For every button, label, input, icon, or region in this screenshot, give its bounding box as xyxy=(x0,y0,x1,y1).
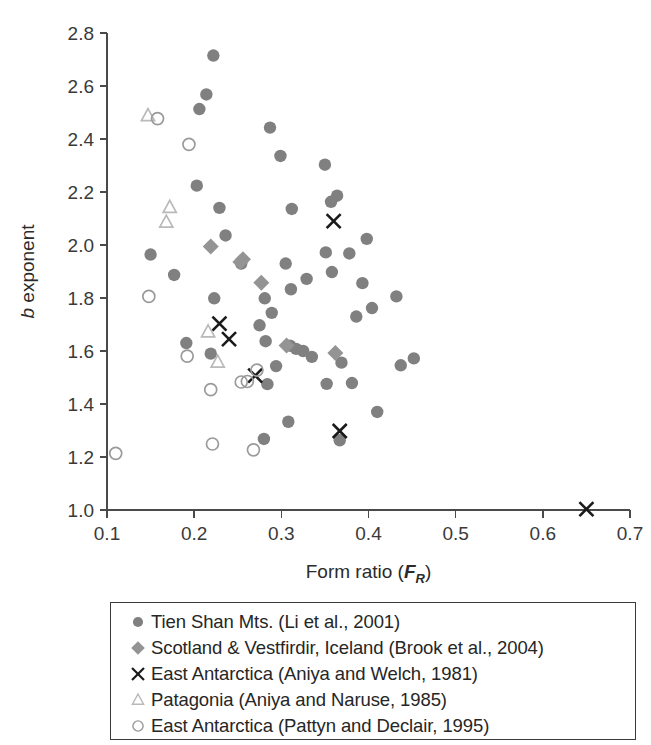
y-axis-title: b exponent xyxy=(17,224,38,319)
x-tick-label: 0.2 xyxy=(181,523,207,544)
series-group xyxy=(144,49,420,446)
data-point xyxy=(366,302,378,314)
circle-filled-icon xyxy=(125,611,151,633)
data-point xyxy=(181,350,193,362)
data-point xyxy=(325,196,337,208)
data-point xyxy=(327,214,341,228)
y-tick-label: 1.4 xyxy=(68,394,95,415)
y-tick-label: 2.2 xyxy=(68,182,94,203)
x-tick-label: 0.7 xyxy=(617,523,643,544)
x-tick-label: 0.5 xyxy=(442,523,468,544)
data-point xyxy=(356,277,368,289)
data-point xyxy=(258,433,270,445)
data-point xyxy=(264,121,276,133)
data-point xyxy=(300,273,312,285)
data-point xyxy=(163,200,176,212)
data-point xyxy=(191,179,203,191)
x-tick-label: 0.6 xyxy=(530,523,556,544)
data-point xyxy=(168,269,180,281)
data-point xyxy=(306,351,318,363)
data-point xyxy=(183,138,195,150)
legend-item[interactable]: Patagonia (Aniya and Naruse, 1985) xyxy=(125,687,631,712)
legend-item-label: East Antarctica (Aniya and Welch, 1981) xyxy=(151,663,478,685)
triangle-open-icon xyxy=(125,689,151,711)
data-point xyxy=(266,307,278,319)
y-tick-label: 1.6 xyxy=(68,341,94,362)
data-point xyxy=(285,283,297,295)
scatter-plot-area: 1.01.21.41.61.82.02.22.42.62.80.10.20.30… xyxy=(0,0,651,600)
data-point xyxy=(207,49,219,61)
data-point xyxy=(247,444,259,456)
data-point xyxy=(320,246,332,258)
data-point xyxy=(261,378,273,390)
data-point xyxy=(180,337,192,349)
cross-icon xyxy=(125,663,151,685)
y-tick-label: 2.4 xyxy=(68,129,95,150)
data-point xyxy=(286,203,298,215)
x-tick-label: 0.3 xyxy=(268,523,294,544)
data-point xyxy=(346,377,358,389)
data-point xyxy=(390,290,402,302)
y-tick-label: 1.8 xyxy=(68,288,94,309)
x-tick-label: 0.4 xyxy=(355,523,382,544)
data-point xyxy=(259,292,271,304)
data-point xyxy=(253,275,269,291)
y-tick-label: 2.6 xyxy=(68,76,94,97)
data-point xyxy=(319,159,331,171)
data-point xyxy=(110,447,122,459)
y-tick-label: 2.0 xyxy=(68,235,94,256)
data-point xyxy=(279,257,291,269)
data-point xyxy=(205,347,217,359)
data-point xyxy=(282,416,294,428)
diamond-filled-icon xyxy=(125,637,151,659)
legend-item[interactable]: East Antarctica (Pattyn and Declair, 199… xyxy=(125,713,631,738)
data-point xyxy=(395,359,407,371)
y-tick-label: 1.2 xyxy=(68,447,94,468)
circle-open-icon xyxy=(125,715,151,737)
data-point xyxy=(219,229,231,241)
data-point xyxy=(208,292,220,304)
legend-list: Tien Shan Mts. (Li et al., 2001)Scotland… xyxy=(125,609,631,739)
data-point xyxy=(371,406,383,418)
data-point xyxy=(143,290,155,302)
data-point xyxy=(203,239,219,255)
data-point xyxy=(200,88,212,100)
data-point xyxy=(222,332,236,346)
legend-item[interactable]: Scotland & Vestfirdir, Iceland (Brook et… xyxy=(125,635,631,660)
legend-box: Tien Shan Mts. (Li et al., 2001)Scotland… xyxy=(110,602,636,740)
data-point xyxy=(361,233,373,245)
scatter-plot-svg: 1.01.21.41.61.82.02.22.42.62.80.10.20.30… xyxy=(0,0,651,600)
data-point xyxy=(206,438,218,450)
figure-root: 1.01.21.41.61.82.02.22.42.62.80.10.20.30… xyxy=(0,0,651,745)
data-point xyxy=(350,310,362,322)
x-axis-title: Form ratio (FR) xyxy=(306,561,432,586)
y-tick-label: 2.8 xyxy=(68,23,94,44)
legend-item[interactable]: East Antarctica (Aniya and Welch, 1981) xyxy=(125,661,631,686)
data-point xyxy=(259,335,271,347)
data-point xyxy=(270,360,282,372)
data-point xyxy=(326,266,338,278)
data-point xyxy=(212,317,226,331)
legend-item-label: East Antarctica (Pattyn and Declair, 199… xyxy=(151,715,489,737)
legend-item-label: Tien Shan Mts. (Li et al., 2001) xyxy=(151,611,400,633)
legend-item-label: Scotland & Vestfirdir, Iceland (Brook et… xyxy=(151,637,544,659)
data-point xyxy=(213,202,225,214)
x-tick-label: 0.1 xyxy=(94,523,120,544)
series-group xyxy=(110,113,263,460)
data-point xyxy=(343,247,355,259)
data-point xyxy=(193,103,205,115)
axes: 1.01.21.41.61.82.02.22.42.62.80.10.20.30… xyxy=(68,23,644,544)
legend-item[interactable]: Tien Shan Mts. (Li et al., 2001) xyxy=(125,609,631,634)
data-point xyxy=(320,378,332,390)
data-point xyxy=(144,248,156,260)
data-point xyxy=(205,384,217,396)
data-point xyxy=(274,150,286,162)
data-point xyxy=(408,352,420,364)
y-tick-label: 1.0 xyxy=(68,500,94,521)
legend-item-label: Patagonia (Aniya and Naruse, 1985) xyxy=(151,689,447,711)
data-point xyxy=(253,319,265,331)
data-point xyxy=(160,215,173,227)
